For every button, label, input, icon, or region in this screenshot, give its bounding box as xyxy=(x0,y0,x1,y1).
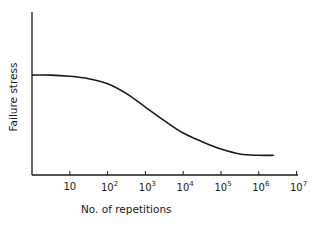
chart-plot-area xyxy=(0,0,318,228)
sn-curve xyxy=(32,75,274,155)
x-tick-label: 105 xyxy=(214,181,231,193)
y-axis-label: Failure stress xyxy=(7,63,19,132)
x-tick-label: 104 xyxy=(177,181,194,193)
x-tick-label: 102 xyxy=(101,181,118,193)
x-tick-label: 107 xyxy=(290,181,307,193)
x-axis-label: No. of repetitions xyxy=(81,203,172,215)
x-tick-label: 10 xyxy=(63,181,76,192)
x-tick-label: 103 xyxy=(139,181,156,193)
x-tick-label: 106 xyxy=(252,181,269,193)
